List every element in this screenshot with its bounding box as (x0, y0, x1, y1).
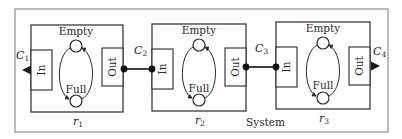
system-diagram: System In Out Empty Full r1 In Out Empty… (0, 0, 402, 139)
channel-c1: C1 (16, 49, 31, 75)
channel-label: C1 (16, 49, 29, 63)
system-label: System (246, 116, 285, 128)
channel-c2: C2 (121, 44, 156, 72)
state-label-empty: Empty (59, 25, 94, 37)
state-full-node (317, 92, 329, 104)
module-r2: In Out Empty Full r2 (152, 24, 246, 128)
connector-dot (149, 66, 156, 73)
state-label-empty: Empty (306, 22, 341, 34)
channel-label: C3 (255, 42, 268, 56)
module-r3: In Out Empty Full r3 (276, 22, 370, 126)
in-port-label: In (35, 64, 47, 75)
arrow-right-icon (371, 62, 380, 71)
state-label-full: Full (313, 79, 334, 91)
arrow-left-icon (22, 66, 31, 75)
state-full-node (193, 94, 205, 106)
channel-label: C4 (373, 45, 386, 59)
out-port-label: Out (229, 56, 241, 76)
in-port-label: In (280, 61, 292, 72)
out-port-label: Out (353, 55, 365, 75)
connector-dot (273, 64, 280, 71)
connector-dot (243, 64, 250, 71)
state-label-full: Full (189, 82, 210, 94)
state-label-full: Full (66, 83, 87, 95)
channel-c4: C4 (371, 45, 386, 71)
module-label: r1 (73, 115, 83, 129)
in-port-label: In (156, 63, 168, 74)
state-empty-node (193, 39, 205, 51)
connector-dot (121, 66, 128, 73)
module-label: r3 (319, 112, 329, 126)
state-empty-node (317, 37, 329, 49)
state-full-node (70, 95, 82, 107)
state-empty-node (70, 40, 82, 52)
state-label-empty: Empty (182, 24, 217, 36)
out-port-label: Out (106, 56, 118, 76)
module-r1: In Out Empty Full r1 (31, 25, 123, 129)
channel-c3: C3 (243, 42, 280, 70)
channel-label: C2 (134, 44, 147, 58)
module-label: r2 (195, 114, 205, 128)
